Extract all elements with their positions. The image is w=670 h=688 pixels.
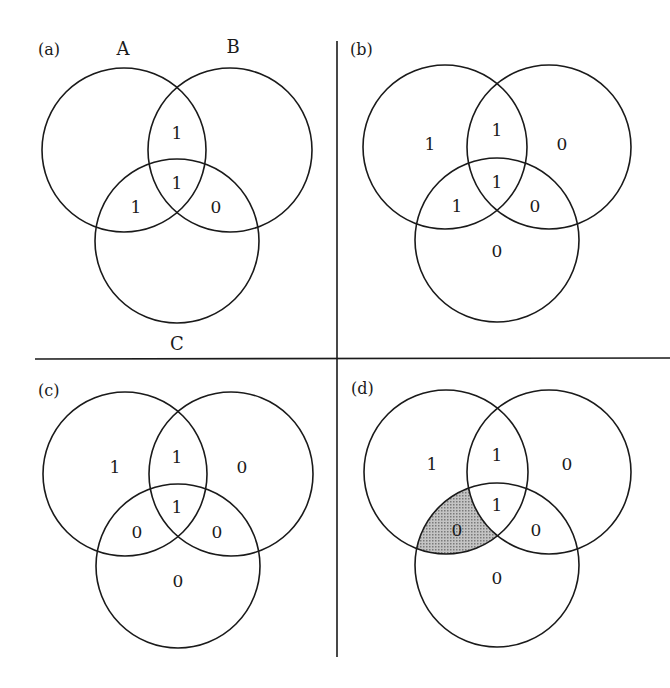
region-ab: 1 xyxy=(492,120,503,140)
circle-a xyxy=(363,65,527,229)
region-b: 0 xyxy=(557,134,568,154)
panel-d: (d) 1 1 0 1 0 0 0 xyxy=(351,379,631,647)
panel-c: (c) 1 1 0 1 0 0 0 xyxy=(38,381,313,648)
panel-a-label: (a) xyxy=(38,40,60,59)
region-ac: 0 xyxy=(452,520,463,540)
region-bc: 0 xyxy=(531,520,542,540)
region-b: 0 xyxy=(562,454,573,474)
region-b: 0 xyxy=(237,457,248,477)
panel-b-label: (b) xyxy=(350,40,373,59)
region-bc: 0 xyxy=(530,196,541,216)
set-label-b: B xyxy=(226,36,239,57)
circle-a xyxy=(42,68,206,232)
region-ac: 1 xyxy=(452,196,463,216)
horizontal-divider xyxy=(35,358,670,359)
panel-a: (a) A B C 1 1 1 0 xyxy=(38,36,312,354)
region-abc: 1 xyxy=(172,173,183,193)
circle-b xyxy=(467,65,631,229)
region-ac: 1 xyxy=(131,197,142,217)
region-abc: 1 xyxy=(172,497,183,517)
region-a: 1 xyxy=(427,454,438,474)
panel-c-label: (c) xyxy=(38,381,59,400)
region-a: 1 xyxy=(425,134,436,154)
circle-b xyxy=(148,68,312,232)
panel-b: (b) 1 1 0 1 1 0 0 xyxy=(350,40,631,322)
region-c: 0 xyxy=(492,568,503,588)
region-bc: 0 xyxy=(212,522,223,542)
region-bc: 0 xyxy=(211,197,222,217)
set-label-a: A xyxy=(116,38,131,59)
panel-d-label: (d) xyxy=(351,379,374,398)
venn-figure: (a) A B C 1 1 1 0 (b) 1 1 0 1 1 0 0 (c) … xyxy=(0,0,670,688)
region-c: 0 xyxy=(492,241,503,261)
region-ac: 0 xyxy=(132,522,143,542)
region-ab: 1 xyxy=(172,447,183,467)
region-abc: 1 xyxy=(492,495,503,515)
set-label-c: C xyxy=(170,333,184,354)
region-ab: 1 xyxy=(492,445,503,465)
region-ab: 1 xyxy=(172,123,183,143)
region-a: 1 xyxy=(110,457,121,477)
region-abc: 1 xyxy=(492,172,503,192)
circle-b xyxy=(149,392,313,556)
region-c: 0 xyxy=(173,571,184,591)
circle-a xyxy=(43,392,207,556)
